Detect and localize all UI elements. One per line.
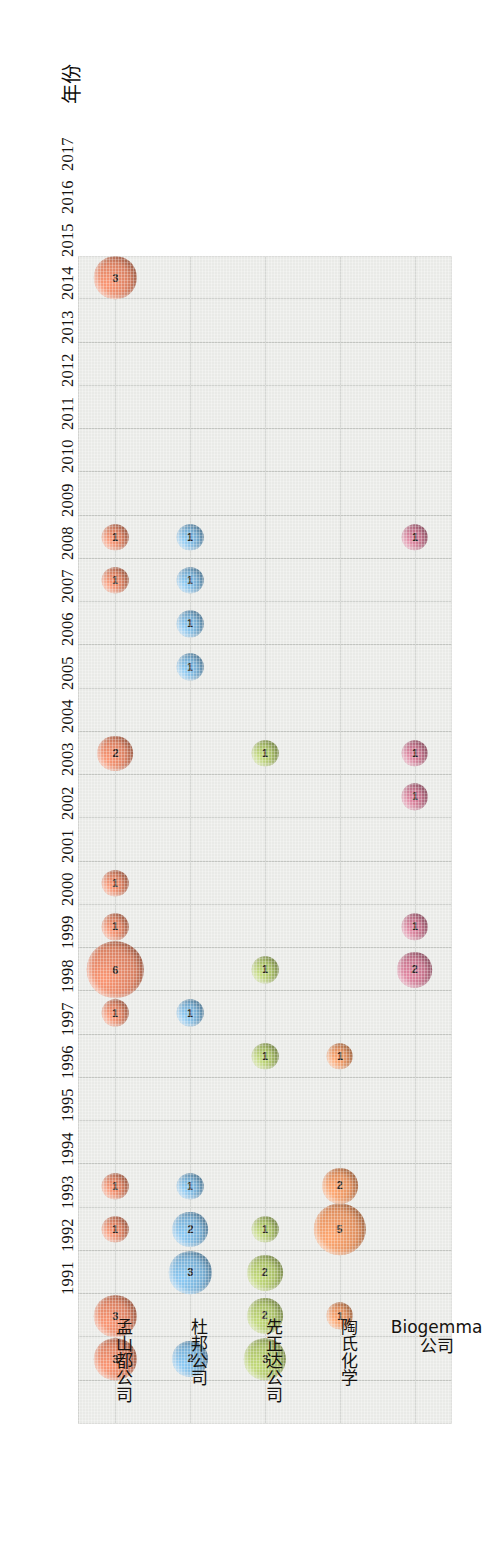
gridline-horizontal bbox=[190, 256, 191, 1424]
bubble-value: 1 bbox=[262, 1224, 268, 1235]
bubble-syngenta-2007[interactable]: 1 bbox=[252, 957, 279, 984]
company-label-biogemma-line2: 公司 bbox=[377, 1337, 486, 1356]
year-tick-1995: 1995 bbox=[58, 1089, 78, 1123]
bubble-value: 1 bbox=[112, 878, 118, 889]
year-tick-1999: 1999 bbox=[58, 915, 78, 949]
bubble-monsanto-2012[interactable]: 1 bbox=[102, 1173, 129, 1200]
bubble-biogemma-2003[interactable]: 1 bbox=[401, 783, 428, 810]
year-tick-1992: 1992 bbox=[58, 1218, 78, 1252]
bubble-monsanto-2006[interactable]: 1 bbox=[102, 913, 129, 940]
gridline-horizontal bbox=[415, 256, 416, 1424]
bubble-dupont-2012[interactable]: 1 bbox=[177, 1173, 204, 1200]
bubble-syngenta-2002[interactable]: 1 bbox=[252, 740, 279, 767]
bubble-monsanto-1998[interactable]: 1 bbox=[102, 567, 129, 594]
bubble-value: 1 bbox=[412, 921, 418, 932]
bubble-value: 1 bbox=[112, 1008, 118, 1019]
year-tick-2011: 2011 bbox=[58, 397, 78, 430]
year-tick-2016: 2016 bbox=[58, 180, 78, 214]
bubble-value: 2 bbox=[262, 1267, 268, 1278]
bubble-value: 1 bbox=[412, 532, 418, 543]
bubble-value: 1 bbox=[187, 662, 193, 673]
plot-area: 3311161121132321111113221111152121111 bbox=[78, 256, 452, 1424]
bubble-value: 3 bbox=[112, 272, 118, 283]
year-tick-2000: 2000 bbox=[58, 872, 78, 906]
year-tick-1993: 1993 bbox=[58, 1175, 78, 1209]
bubble-value: 1 bbox=[412, 791, 418, 802]
bubble-monsanto-2008[interactable]: 1 bbox=[102, 1000, 129, 1027]
year-tick-2007: 2007 bbox=[58, 569, 78, 603]
year-tick-2005: 2005 bbox=[58, 656, 78, 690]
bubble-syngenta-2009[interactable]: 1 bbox=[252, 1043, 279, 1070]
bubble-dupont-1997[interactable]: 1 bbox=[177, 524, 204, 551]
bubble-monsanto-2002[interactable]: 2 bbox=[98, 736, 134, 772]
bubble-dupont-1999[interactable]: 1 bbox=[177, 610, 204, 637]
bubble-value: 1 bbox=[112, 575, 118, 586]
bubble-dow-2009[interactable]: 1 bbox=[327, 1043, 354, 1070]
year-tick-2008: 2008 bbox=[58, 526, 78, 560]
bubble-value: 6 bbox=[112, 964, 118, 975]
year-tick-1998: 1998 bbox=[58, 959, 78, 993]
bubble-dupont-1998[interactable]: 1 bbox=[177, 567, 204, 594]
year-tick-1991: 1991 bbox=[58, 1262, 78, 1296]
year-tick-2013: 2013 bbox=[58, 310, 78, 344]
company-label-biogemma-line1: Biogemma bbox=[377, 1318, 486, 1337]
year-tick-2010: 2010 bbox=[58, 440, 78, 474]
bubble-syngenta-2013[interactable]: 1 bbox=[252, 1216, 279, 1243]
bubble-value: 1 bbox=[187, 1008, 193, 1019]
bubble-value: 2 bbox=[112, 748, 118, 759]
company-label-monsanto: 孟山都公司 bbox=[112, 1318, 137, 1403]
bubble-value: 1 bbox=[262, 1051, 268, 1062]
year-tick-1997: 1997 bbox=[58, 1002, 78, 1036]
company-label-syngenta: 先正达公司 bbox=[262, 1318, 287, 1403]
bubble-value: 2 bbox=[337, 1181, 343, 1192]
bubble-dupont-2014[interactable]: 3 bbox=[169, 1251, 211, 1293]
year-tick-2006: 2006 bbox=[58, 613, 78, 647]
bubble-biogemma-1997[interactable]: 1 bbox=[401, 524, 428, 551]
bubble-dupont-2013[interactable]: 2 bbox=[172, 1211, 208, 1247]
bubble-dupont-2000[interactable]: 1 bbox=[177, 654, 204, 681]
gridline-horizontal bbox=[265, 256, 266, 1424]
bubble-monsanto-2005[interactable]: 1 bbox=[102, 870, 129, 897]
year-tick-1996: 1996 bbox=[58, 1045, 78, 1079]
year-tick-2004: 2004 bbox=[58, 699, 78, 733]
bubble-value: 1 bbox=[112, 1181, 118, 1192]
bubble-monsanto-1997[interactable]: 1 bbox=[102, 524, 129, 551]
bubble-value: 1 bbox=[112, 1224, 118, 1235]
bubble-value: 1 bbox=[412, 748, 418, 759]
bubble-value: 1 bbox=[187, 1181, 193, 1192]
bubble-monsanto-2007[interactable]: 6 bbox=[87, 942, 143, 998]
year-tick-2012: 2012 bbox=[58, 353, 78, 387]
bubble-value: 1 bbox=[262, 964, 268, 975]
bubble-value: 1 bbox=[112, 921, 118, 932]
company-label-dow: 陶氏化学 bbox=[336, 1318, 361, 1386]
bubble-dow-2012[interactable]: 2 bbox=[322, 1168, 358, 1204]
bubble-value: 5 bbox=[337, 1224, 343, 1235]
bubble-value: 1 bbox=[112, 532, 118, 543]
bubble-value: 1 bbox=[187, 618, 193, 629]
year-tick-2017: 2017 bbox=[58, 137, 78, 171]
year-tick-2009: 2009 bbox=[58, 483, 78, 517]
bubble-biogemma-2006[interactable]: 1 bbox=[401, 913, 428, 940]
y-axis-title: 年份 bbox=[56, 64, 85, 104]
company-label-dupont: 杜邦公司 bbox=[187, 1318, 212, 1386]
year-tick-2014: 2014 bbox=[58, 267, 78, 301]
year-tick-2003: 2003 bbox=[58, 742, 78, 776]
bubble-dow-2013[interactable]: 5 bbox=[314, 1203, 366, 1255]
gridline-horizontal bbox=[115, 256, 116, 1424]
bubble-monsanto-2013[interactable]: 1 bbox=[102, 1216, 129, 1243]
bubble-value: 2 bbox=[187, 1224, 193, 1235]
year-tick-2015: 2015 bbox=[58, 223, 78, 257]
company-label-biogemma: Biogemma公司 bbox=[377, 1318, 486, 1356]
bubble-value: 1 bbox=[262, 748, 268, 759]
bubble-monsanto-1991[interactable]: 3 bbox=[94, 256, 136, 298]
bubble-biogemma-2002[interactable]: 1 bbox=[401, 740, 428, 767]
bubble-biogemma-2007[interactable]: 2 bbox=[397, 952, 433, 988]
bubble-value: 3 bbox=[187, 1267, 193, 1278]
year-tick-2001: 2001 bbox=[58, 829, 78, 863]
year-tick-2002: 2002 bbox=[58, 786, 78, 820]
bubble-dupont-2008[interactable]: 1 bbox=[177, 1000, 204, 1027]
bubble-syngenta-2014[interactable]: 2 bbox=[247, 1255, 283, 1291]
bubble-value: 1 bbox=[187, 532, 193, 543]
bubble-value: 1 bbox=[187, 575, 193, 586]
